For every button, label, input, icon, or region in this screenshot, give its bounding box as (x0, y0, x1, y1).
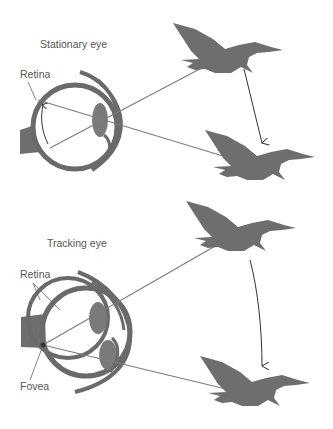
stationary-retina-label: Retina (20, 68, 50, 80)
tracking-retina-label: Retina (20, 268, 50, 280)
fovea-point (41, 343, 46, 348)
bird-motion-arrow (244, 69, 262, 143)
bird-motion-arrow (250, 260, 262, 366)
tracking-eye-panel (21, 201, 310, 406)
bird-top (173, 23, 283, 73)
tracking-eye-title: Tracking eye (47, 237, 107, 249)
eye-tracking-diagram (0, 0, 333, 429)
bird-bottom (205, 130, 315, 180)
tracking-fovea-label: Fovea (20, 380, 49, 392)
ray-to-bottom-bird (43, 345, 226, 389)
bird-bottom (200, 356, 310, 406)
stationary-eye-title: Stationary eye (40, 38, 107, 50)
bird-top (186, 201, 296, 251)
lens-previous (89, 302, 107, 334)
